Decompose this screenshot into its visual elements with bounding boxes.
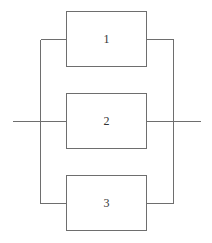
block-3: 3 bbox=[67, 176, 147, 231]
block-3-label: 3 bbox=[104, 196, 110, 210]
block-1: 1 bbox=[67, 12, 147, 67]
block-2-label: 2 bbox=[104, 114, 110, 128]
block-1-label: 1 bbox=[104, 32, 110, 46]
parallel-block-diagram: 1 2 3 bbox=[0, 0, 212, 243]
block-2: 2 bbox=[67, 94, 147, 149]
